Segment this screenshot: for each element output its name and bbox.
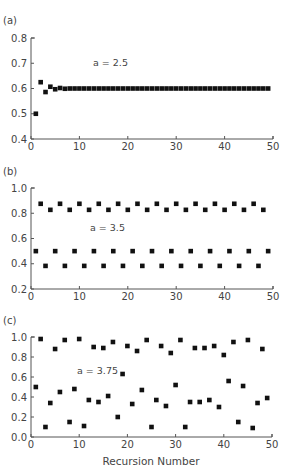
- data-point: [222, 208, 227, 213]
- data-point: [116, 86, 121, 91]
- data-point: [232, 201, 237, 206]
- data-point: [67, 208, 72, 213]
- data-point: [72, 387, 77, 392]
- x-tick-label: 0: [28, 291, 34, 302]
- data-point: [193, 346, 198, 351]
- data-point: [266, 249, 271, 254]
- data-point: [247, 86, 252, 91]
- data-point: [140, 86, 145, 91]
- data-point: [111, 340, 116, 345]
- data-point: [135, 86, 140, 91]
- data-point: [154, 398, 159, 403]
- data-point: [256, 264, 261, 269]
- data-point: [67, 86, 72, 91]
- x-tick-label: 0: [28, 141, 34, 152]
- data-point: [237, 264, 242, 269]
- y-tick-label: 0.8: [11, 33, 27, 44]
- x-tick-label: 50: [266, 439, 279, 450]
- data-point: [183, 425, 188, 430]
- axis-lines: [31, 337, 272, 437]
- x-tick-label: 10: [73, 439, 86, 450]
- annotation-c: a = 3.75: [77, 365, 118, 376]
- y-tick-label: 0.6: [11, 83, 27, 94]
- data-point: [82, 86, 87, 91]
- data-point: [184, 86, 189, 91]
- x-tick-label: 20: [121, 439, 134, 450]
- data-point: [101, 346, 106, 351]
- data-point: [174, 201, 179, 206]
- data-point: [116, 201, 121, 206]
- data-point: [251, 86, 256, 91]
- y-tick-label: 0.2: [11, 412, 27, 423]
- data-point: [34, 385, 39, 390]
- x-tick-label: 10: [73, 141, 86, 152]
- data-point: [101, 86, 106, 91]
- data-point: [67, 420, 72, 425]
- y-tick-label: 0.4: [11, 258, 27, 269]
- data-point: [208, 249, 213, 254]
- data-point: [101, 264, 106, 269]
- data-point: [150, 249, 155, 254]
- data-point: [193, 201, 198, 206]
- data-point: [82, 264, 87, 269]
- axes-a: 0.40.50.60.70.801020304050: [11, 33, 279, 153]
- data-point: [217, 264, 222, 269]
- data-point: [72, 86, 77, 91]
- data-point: [246, 338, 251, 343]
- axes-c: 0.00.20.40.60.81.001020304050: [11, 332, 278, 451]
- data-point: [242, 208, 247, 213]
- data-point: [169, 249, 174, 254]
- data-point: [106, 86, 111, 91]
- figure: (a) a = 2.5 0.40.50.60.70.801020304050 (…: [0, 0, 296, 475]
- data-point: [43, 90, 48, 95]
- x-tick-label: 40: [218, 291, 231, 302]
- data-point: [53, 249, 58, 254]
- y-tick-label: 0.8: [11, 352, 27, 363]
- data-point: [96, 201, 101, 206]
- x-tick-label: 30: [170, 141, 183, 152]
- data-point: [72, 249, 77, 254]
- data-point: [96, 400, 101, 405]
- data-point: [48, 84, 53, 89]
- data-point: [87, 398, 92, 403]
- data-point: [130, 402, 135, 407]
- data-point: [247, 249, 252, 254]
- data-point: [126, 86, 131, 91]
- data-point: [63, 86, 68, 91]
- logistic-map-plots: (a) a = 2.5 0.40.50.60.70.801020304050 (…: [0, 0, 296, 475]
- data-point: [188, 400, 193, 405]
- data-point: [222, 86, 227, 91]
- y-tick-label: 1.0: [11, 183, 27, 194]
- data-point: [198, 264, 203, 269]
- panel-label-b: (b): [3, 166, 17, 177]
- data-point: [111, 249, 116, 254]
- data-point: [178, 338, 183, 343]
- data-point: [261, 86, 266, 91]
- data-point: [208, 86, 213, 91]
- points-b: [34, 201, 271, 268]
- data-point: [38, 80, 43, 85]
- data-point: [111, 86, 116, 91]
- data-point: [48, 401, 53, 406]
- x-tick-label: 20: [121, 141, 134, 152]
- data-point: [82, 424, 87, 429]
- panel-a: (a) a = 2.5 0.40.50.60.70.801020304050: [3, 15, 279, 152]
- data-point: [58, 86, 63, 91]
- panel-label-c: (c): [3, 315, 16, 326]
- data-point: [226, 379, 231, 384]
- data-point: [212, 344, 217, 349]
- data-point: [237, 86, 242, 91]
- y-tick-label: 1.0: [11, 332, 27, 343]
- annotation-a: a = 2.5: [93, 57, 128, 68]
- data-point: [87, 208, 92, 213]
- y-tick-label: 0.7: [11, 58, 27, 69]
- data-point: [34, 111, 39, 116]
- data-point: [222, 353, 227, 358]
- x-tick-label: 0: [28, 439, 34, 450]
- y-tick-label: 0.5: [11, 108, 27, 119]
- data-point: [179, 264, 184, 269]
- y-tick-label: 0.8: [11, 208, 27, 219]
- x-tick-label: 50: [267, 291, 280, 302]
- panel-b: (b) a = 3.5 0.20.40.60.81.001020304050: [3, 166, 279, 302]
- data-point: [58, 390, 63, 395]
